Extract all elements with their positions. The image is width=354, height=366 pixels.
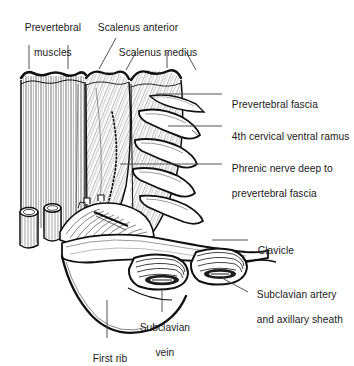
- label-subclavian-vein-line1: Subclavian: [140, 322, 190, 333]
- label-first-rib: First rib: [67, 341, 147, 366]
- label-phrenic-nerve-line1: Phrenic nerve deep to: [232, 163, 333, 174]
- label-subclavian-artery: Subclavian artery and axillary sheath: [251, 277, 343, 327]
- label-scalenus-anterior-line1: Scalenus anterior: [98, 22, 178, 33]
- label-prevertebral-fascia-line1: Prevertebral fascia: [232, 99, 318, 110]
- label-clavicle-line1: Clavicle: [258, 245, 294, 256]
- label-phrenic-nerve: Phrenic nerve deep to prevertebral fasci…: [226, 151, 333, 201]
- subclavian-vein-structure: [129, 254, 188, 289]
- label-prevertebral-muscles-line2: muscles: [34, 47, 72, 58]
- label-4th-cervical-ventral-ramus: 4th cervical ventral ramus: [226, 119, 349, 144]
- label-scalenus-medius: Scalenus medius: [113, 35, 197, 60]
- label-subclavian-vein-line2: vein: [155, 347, 174, 358]
- label-subclavian-artery-line1: Subclavian artery: [257, 289, 337, 300]
- label-4th-cervical-ventral-ramus-line1: 4th cervical ventral ramus: [232, 131, 350, 142]
- label-first-rib-line1: First rib: [93, 353, 128, 364]
- label-phrenic-nerve-line2: prevertebral fascia: [232, 188, 317, 199]
- label-prevertebral-muscles-line1: Prevertebral: [25, 22, 81, 33]
- label-subclavian-artery-line2: and axillary sheath: [257, 314, 343, 325]
- label-scalenus-medius-line1: Scalenus medius: [119, 47, 197, 58]
- label-prevertebral-fascia: Prevertebral fascia: [226, 87, 318, 112]
- label-scalenus-anterior: Scalenus anterior: [92, 10, 178, 35]
- label-prevertebral-muscles: Prevertebral muscles: [2, 10, 98, 60]
- label-clavicle: Clavicle: [252, 233, 294, 258]
